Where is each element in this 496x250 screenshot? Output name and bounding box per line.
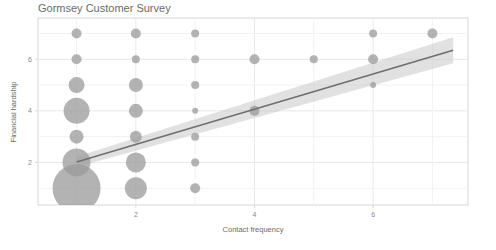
x-tick-label: 2 bbox=[134, 211, 138, 218]
chart-title: Gormsey Customer Survey bbox=[38, 2, 171, 14]
x-tick-label: 4 bbox=[253, 211, 257, 218]
y-tick-label: 6 bbox=[28, 56, 32, 63]
y-tick-label: 2 bbox=[28, 159, 32, 166]
chart-canvas: Gormsey Customer Survey 246246 Contact f… bbox=[0, 0, 496, 250]
x-axis-label: Contact frequency bbox=[223, 225, 284, 234]
y-axis-label: Financial hardship bbox=[9, 82, 18, 143]
bubble-chart: Gormsey Customer Survey 246246 Contact f… bbox=[0, 0, 496, 250]
x-tick-label: 6 bbox=[371, 211, 375, 218]
y-tick-label: 4 bbox=[28, 107, 32, 114]
